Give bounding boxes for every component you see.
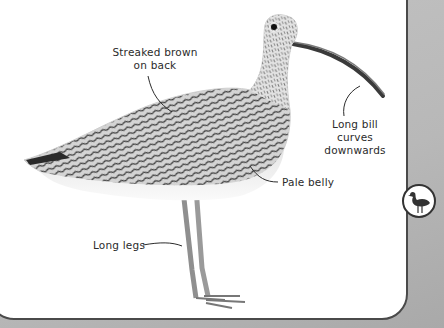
label-bill-line-2: curves <box>315 131 395 144</box>
label-bill-line-1: Long bill <box>315 118 395 131</box>
eye <box>271 24 277 30</box>
curlew-illustration <box>0 0 444 328</box>
label-belly: Pale belly <box>282 176 334 189</box>
bill <box>293 44 383 96</box>
label-back-line-1: Streaked brown <box>100 46 210 59</box>
feet <box>196 296 245 308</box>
leg-back <box>183 190 196 298</box>
leader-legs <box>143 243 182 246</box>
label-bill-line-3: downwards <box>315 144 395 157</box>
wading-bird-icon <box>404 186 434 216</box>
label-bill: Long bill curves downwards <box>315 118 395 157</box>
side-tab-badge[interactable] <box>402 184 436 218</box>
body <box>24 15 297 195</box>
label-back: Streaked brown on back <box>100 46 210 72</box>
label-legs: Long legs <box>93 239 145 252</box>
label-back-line-2: on back <box>100 59 210 72</box>
leg-front <box>196 188 208 296</box>
leader-bill <box>344 86 360 116</box>
